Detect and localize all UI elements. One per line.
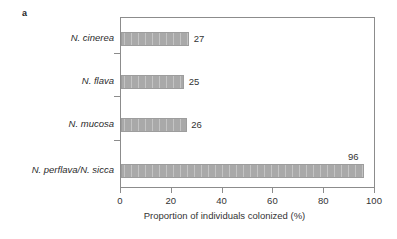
x-axis-tick-0 bbox=[120, 188, 121, 193]
x-axis-tick-60 bbox=[272, 188, 273, 193]
x-axis-label-20: 20 bbox=[166, 195, 177, 206]
bar-n-flava bbox=[121, 75, 184, 89]
category-label-3: N. perflava/N. sicca bbox=[0, 163, 114, 177]
bar-n-cinerea bbox=[121, 32, 189, 46]
panel-label: a bbox=[22, 9, 27, 18]
bar-value-2: 26 bbox=[191, 118, 202, 132]
bar-n-perflava-n-sicca bbox=[121, 164, 364, 178]
x-axis-label-100: 100 bbox=[366, 195, 382, 206]
category-label-2: N. mucosa bbox=[0, 117, 114, 131]
x-axis-label-60: 60 bbox=[267, 195, 278, 206]
plot-area: 27 25 26 96 bbox=[120, 17, 375, 188]
x-axis-tick-20 bbox=[171, 188, 172, 193]
figure-panel-a: a N. cinerea N. flava N. mucosa N. perfl… bbox=[0, 0, 397, 239]
x-axis-tick-100 bbox=[374, 188, 375, 193]
category-label-0: N. cinerea bbox=[0, 31, 114, 45]
x-axis-tick-40 bbox=[222, 188, 223, 193]
x-axis-label-0: 0 bbox=[117, 195, 122, 206]
bar-value-0: 27 bbox=[194, 32, 205, 46]
x-axis-tick-80 bbox=[323, 188, 324, 193]
x-axis-title-text: Proportion of individuals colonized (%) bbox=[144, 210, 306, 221]
x-axis-label-80: 80 bbox=[318, 195, 329, 206]
x-axis-title: Proportion of individuals colonized (%) bbox=[0, 210, 397, 221]
plot-inner: 27 25 26 96 bbox=[121, 18, 374, 187]
x-axis-label-40: 40 bbox=[216, 195, 227, 206]
bar-value-3: 96 bbox=[348, 151, 359, 163]
bar-n-mucosa bbox=[121, 118, 187, 132]
bar-value-1: 25 bbox=[189, 75, 200, 89]
category-label-1: N. flava bbox=[0, 74, 114, 88]
